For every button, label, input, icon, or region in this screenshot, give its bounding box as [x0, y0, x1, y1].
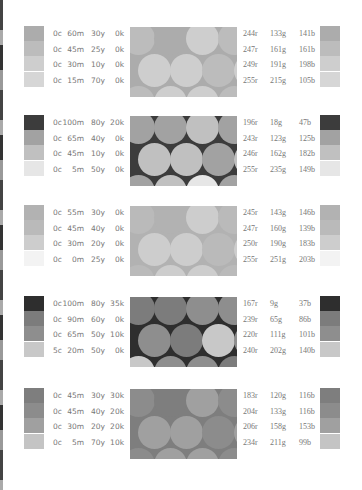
pattern-circle — [218, 448, 237, 459]
pattern-circle — [186, 448, 219, 459]
rgb-value: 255r — [243, 162, 258, 178]
cmyk-value: 0c — [53, 57, 62, 73]
color-swatch — [320, 161, 340, 176]
pattern-circle — [186, 389, 219, 417]
rgb-value: 183r — [243, 388, 258, 404]
cmyk-value: 55m — [62, 205, 84, 221]
rgb-value: 244r — [243, 26, 258, 42]
rgb-value: 116b — [299, 388, 315, 404]
rgb-value: 9g — [270, 296, 278, 312]
cmyk-value: 0c — [53, 115, 62, 131]
color-swatch — [24, 251, 44, 266]
rgb-value: 161g — [270, 42, 286, 58]
rgb-value: 251g — [270, 252, 286, 268]
pattern-circle — [202, 416, 235, 449]
rgb-row: 255r215g105b — [243, 73, 308, 89]
palette-block: 0c100m80y35k0c90m60y0k0c65m50y10k5c20m50… — [0, 296, 362, 374]
cmyk-value: 0k — [110, 146, 124, 162]
cmyk-value: 10y — [89, 146, 105, 162]
cmyk-value: 35k — [110, 296, 124, 312]
cmyk-value: 45m — [62, 221, 84, 237]
pattern-circle — [154, 265, 187, 276]
pattern-circle — [218, 175, 237, 186]
cmyk-row: 0c30m20y0k — [53, 236, 128, 252]
cmyk-value: 0c — [53, 236, 62, 252]
cmyk-value: 30y — [89, 388, 105, 404]
color-swatch — [320, 72, 340, 87]
rgb-value: 190g — [270, 236, 286, 252]
rgb-value: 235g — [270, 162, 286, 178]
rgb-value: 86b — [299, 312, 311, 328]
cmyk-value: 0c — [53, 419, 62, 435]
swatch-column-left — [24, 115, 44, 176]
color-swatch — [24, 296, 44, 311]
cmyk-value: 65m — [62, 327, 84, 343]
cmyk-row: 0c45m40y0k — [53, 221, 128, 237]
rgb-value: 204r — [243, 404, 258, 420]
pattern-circle — [170, 233, 203, 266]
cmyk-value: 30m — [62, 57, 84, 73]
cmyk-value: 25y — [89, 42, 105, 58]
cmyk-value: 45m — [62, 42, 84, 58]
cmyk-value: 0m — [62, 252, 84, 268]
rgb-value: 203b — [299, 252, 315, 268]
color-swatch — [320, 130, 340, 145]
cmyk-value: 80y — [89, 296, 105, 312]
cmyk-value: 0c — [53, 162, 62, 178]
cmyk-value: 70y — [89, 435, 105, 451]
rgb-value: 167r — [243, 296, 258, 312]
rgb-value: 105b — [299, 73, 315, 89]
cmyk-value: 0k — [110, 26, 124, 42]
rgb-value: 116b — [299, 404, 315, 420]
pattern-circle — [154, 389, 187, 417]
rgb-values: 183r120g116b204r133g116b206r158g153b234r… — [243, 388, 308, 450]
cmyk-value: 20k — [110, 115, 124, 131]
cmyk-value: 0k — [110, 312, 124, 328]
pattern-circle — [154, 116, 187, 144]
rgb-value: 198b — [299, 57, 315, 73]
pattern-circle — [138, 324, 171, 357]
rgb-value: 196r — [243, 115, 258, 131]
cmyk-value: 40y — [89, 404, 105, 420]
cmyk-value: 30k — [110, 388, 124, 404]
color-swatch — [24, 342, 44, 357]
cmyk-value: 45m — [62, 388, 84, 404]
pattern-circle — [154, 86, 187, 97]
swatch-column-right — [320, 388, 340, 449]
cmyk-value: 45m — [62, 404, 84, 420]
pattern-circle — [170, 54, 203, 87]
pattern-circle — [186, 265, 219, 276]
cmyk-value: 5c — [53, 343, 62, 359]
pattern-circle — [130, 116, 155, 144]
pattern-circle — [218, 116, 237, 144]
pattern-circle — [218, 356, 237, 367]
cmyk-value: 30m — [62, 236, 84, 252]
pattern-circle — [170, 143, 203, 176]
pattern-circle — [154, 27, 187, 55]
cmyk-value: 20k — [110, 419, 124, 435]
rgb-row: 243r123g125b — [243, 131, 308, 147]
pattern-circle — [130, 389, 155, 417]
pattern-circle — [234, 324, 237, 357]
pattern-circle — [154, 206, 187, 234]
rgb-value: 239r — [243, 312, 258, 328]
pattern-circle — [218, 27, 237, 55]
swatch-column-left — [24, 388, 44, 449]
cmyk-row: 0c45m10y0k — [53, 146, 128, 162]
rgb-value: 99b — [299, 435, 311, 451]
cmyk-row: 0c45m30y30k — [53, 388, 128, 404]
rgb-value: 133g — [270, 404, 286, 420]
pattern-circle — [186, 86, 219, 97]
cmyk-value: 0c — [53, 205, 62, 221]
cmyk-value: 60m — [62, 26, 84, 42]
rgb-value: 191g — [270, 57, 286, 73]
rgb-value: 47b — [299, 115, 311, 131]
rgb-value: 65g — [270, 312, 282, 328]
cmyk-value: 0k — [110, 343, 124, 359]
rgb-value: 183b — [299, 236, 315, 252]
color-swatch — [24, 130, 44, 145]
cmyk-value: 10k — [110, 435, 124, 451]
cmyk-values: 0c60m30y0k0c45m25y0k0c30m10y0k0c15m70y0k — [53, 26, 128, 88]
palette-block: 0c55m30y0k0c45m40y0k0c30m20y0k0c0m25y0k2… — [0, 205, 362, 283]
color-swatch — [320, 342, 340, 357]
